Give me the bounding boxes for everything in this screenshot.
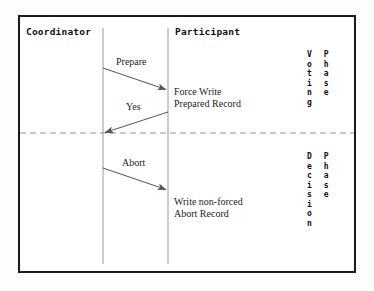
phase-decision-suffix: P h a s e [324, 152, 329, 228]
phase-voting-suffix: P h a s e [324, 50, 329, 107]
phase-char: i [307, 79, 312, 89]
phase-char: s [324, 79, 329, 89]
note-line: Write non-forced [174, 196, 243, 208]
message-label-yes: Yes [126, 101, 141, 112]
phase-decision-name: D e c i s i o n [307, 152, 312, 228]
phase-char: s [307, 190, 312, 200]
actor-label-participant: Participant [175, 26, 240, 37]
phase-char: a [324, 69, 329, 79]
phase-char: P [324, 152, 329, 162]
note-line: Prepared Record [174, 98, 241, 110]
message-label-abort: Abort [122, 157, 145, 168]
phase-char: V [307, 50, 312, 60]
phase-char: n [307, 88, 312, 98]
phase-char: s [324, 181, 329, 191]
phase-char: P [324, 50, 329, 60]
diagram-canvas: Coordinator Participant Prepare Yes Abor… [0, 0, 374, 291]
phase-char: D [307, 152, 312, 162]
phase-char: t [307, 69, 312, 79]
note-prepared-record: Force Write Prepared Record [174, 86, 241, 109]
phase-label-voting: V o t i n g P h a s e [307, 50, 329, 107]
message-label-prepare: Prepare [116, 56, 147, 67]
phase-char: i [307, 181, 312, 191]
note-abort-record: Write non-forced Abort Record [174, 196, 243, 219]
phase-char: n [307, 219, 312, 229]
phase-label-decision: D e c i s i o n P h a s e [307, 152, 329, 228]
note-line: Abort Record [174, 208, 243, 220]
phase-voting-name: V o t i n g [307, 50, 312, 107]
figure-border [18, 15, 356, 273]
phase-char: h [324, 60, 329, 70]
phase-char: o [307, 60, 312, 70]
phase-char: a [324, 171, 329, 181]
phase-char: c [307, 171, 312, 181]
note-line: Force Write [174, 86, 241, 98]
phase-char: e [324, 88, 329, 98]
phase-char: g [307, 98, 312, 108]
phase-char: i [307, 200, 312, 210]
phase-char: h [324, 162, 329, 172]
phase-char: e [324, 190, 329, 200]
phase-char: e [307, 162, 312, 172]
actor-label-coordinator: Coordinator [26, 26, 91, 37]
phase-char: o [307, 209, 312, 219]
